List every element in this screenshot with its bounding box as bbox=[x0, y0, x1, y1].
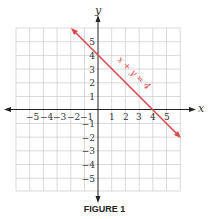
svg-text:−4: −4 bbox=[40, 112, 54, 122]
svg-text:2: 2 bbox=[89, 78, 95, 88]
y-axis-label: y bbox=[94, 4, 102, 17]
y-axis-arrow-down-icon bbox=[96, 196, 101, 203]
svg-text:−2: −2 bbox=[82, 133, 95, 143]
svg-text:4: 4 bbox=[89, 51, 95, 61]
x-axis-label: x bbox=[198, 102, 205, 115]
y-tick-labels: 1 2 3 4 5 −1 −2 −3 −4 −5 bbox=[82, 37, 96, 184]
svg-text:4: 4 bbox=[150, 112, 156, 122]
svg-text:2: 2 bbox=[123, 112, 129, 122]
svg-text:1: 1 bbox=[89, 92, 95, 102]
coordinate-plane: x y −5 −4 −3 −2 −1 1 2 3 4 5 1 2 3 4 5 −… bbox=[0, 0, 209, 219]
svg-text:−3: −3 bbox=[82, 146, 96, 156]
svg-text:−2: −2 bbox=[67, 112, 80, 122]
equation-label: x + y = 4 bbox=[116, 54, 153, 91]
svg-text:−4: −4 bbox=[82, 160, 96, 170]
svg-text:1: 1 bbox=[109, 112, 115, 122]
x-axis-arrow-right-icon bbox=[189, 107, 196, 112]
figure-caption: FIGURE 1 bbox=[0, 204, 209, 214]
x-axis-arrow-left-icon bbox=[4, 107, 11, 112]
axes bbox=[6, 18, 193, 200]
svg-text:−3: −3 bbox=[53, 112, 67, 122]
svg-text:5: 5 bbox=[164, 112, 170, 122]
svg-text:5: 5 bbox=[89, 37, 95, 47]
svg-text:3: 3 bbox=[89, 65, 95, 75]
svg-text:−5: −5 bbox=[26, 112, 40, 122]
svg-text:−1: −1 bbox=[82, 119, 95, 129]
svg-text:3: 3 bbox=[136, 112, 142, 122]
svg-text:−5: −5 bbox=[82, 174, 96, 184]
